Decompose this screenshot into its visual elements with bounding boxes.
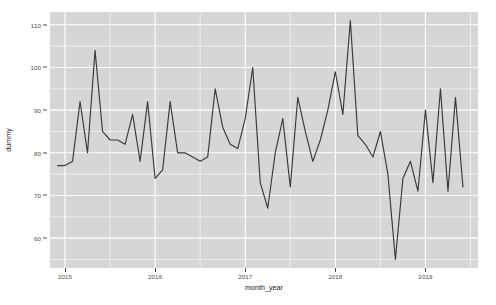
chart-container: 60708090100110 dummy month_year 20152016… xyxy=(0,0,496,305)
y-tick-label: 110 xyxy=(31,21,41,28)
y-tick-mark xyxy=(43,110,47,111)
y-tick-label: 80 xyxy=(34,149,41,156)
y-tick-mark xyxy=(43,67,47,68)
x-tick-mark xyxy=(335,268,336,272)
gridlines-major-x xyxy=(65,12,425,268)
y-tick-mark xyxy=(43,152,47,153)
y-tick-label: 60 xyxy=(34,235,41,242)
x-axis-title: month_year xyxy=(245,283,283,292)
y-axis: 60708090100110 xyxy=(0,0,50,305)
x-tick-label: 2017 xyxy=(238,273,252,280)
y-tick-label: 70 xyxy=(34,192,41,199)
x-tick-label: 2016 xyxy=(148,273,162,280)
chart-plot-svg xyxy=(50,12,478,268)
x-tick-mark xyxy=(425,268,426,272)
x-tick-label: 2019 xyxy=(418,273,432,280)
x-tick-mark xyxy=(245,268,246,272)
chart-plot-panel xyxy=(50,12,478,268)
y-tick-mark xyxy=(43,195,47,196)
x-tick-label: 2018 xyxy=(328,273,342,280)
y-tick-mark xyxy=(43,24,47,25)
y-tick-mark xyxy=(43,238,47,239)
y-tick-label: 90 xyxy=(34,107,41,114)
y-tick-label: 100 xyxy=(30,64,41,71)
data-line-dummy xyxy=(58,21,463,260)
y-axis-title: dummy xyxy=(4,128,13,152)
x-tick-mark xyxy=(155,268,156,272)
x-tick-label: 2015 xyxy=(58,273,72,280)
x-tick-mark xyxy=(65,268,66,272)
